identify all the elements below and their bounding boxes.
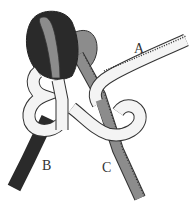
strand-label-b: B [42, 159, 51, 173]
strand-label-a: A [134, 42, 144, 56]
strand-label-c: C [102, 161, 111, 175]
knot-diagram: A B C [0, 0, 191, 201]
knot-illustration [0, 0, 191, 201]
